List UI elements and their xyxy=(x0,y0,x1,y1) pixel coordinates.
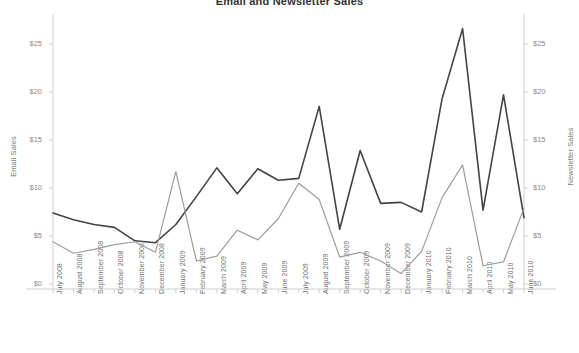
series-line-email-sales xyxy=(53,29,524,243)
plot-area xyxy=(0,0,579,353)
series-line-newsletter-sales xyxy=(53,165,524,273)
line-chart: Email and Newsletter Sales Email Sales N… xyxy=(0,0,579,353)
series-lines xyxy=(53,29,524,274)
